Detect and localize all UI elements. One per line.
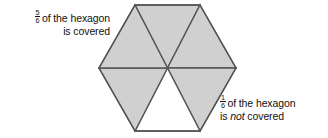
caption-not-covered-line2: is not covered: [220, 110, 326, 124]
caption-not-covered-line1-text: of the hexagon: [227, 97, 295, 109]
fraction-numerator: 1: [220, 94, 226, 102]
fraction-denominator: 6: [35, 16, 41, 25]
fraction-one-sixth: 16: [220, 94, 226, 110]
caption-covered-line2: is covered: [6, 25, 110, 39]
caption-not-covered-line2-after: covered: [247, 110, 284, 122]
caption-covered: 56of the hexagon is covered: [6, 9, 110, 39]
caption-not-covered-emphasis: not: [230, 110, 244, 122]
fraction-numerator: 5: [35, 9, 41, 17]
figure-page: 56of the hexagon is covered 16of the hex…: [0, 0, 328, 138]
caption-not-covered-line1: 16of the hexagon: [220, 94, 326, 110]
fraction-five-sixths: 56: [35, 9, 41, 25]
caption-not-covered: 16of the hexagon is not covered: [220, 94, 326, 124]
caption-covered-line1-text: of the hexagon: [42, 12, 110, 24]
caption-not-covered-line2-before: is: [220, 110, 227, 122]
caption-covered-line1: 56of the hexagon: [6, 9, 110, 25]
fraction-denominator: 6: [220, 101, 226, 110]
